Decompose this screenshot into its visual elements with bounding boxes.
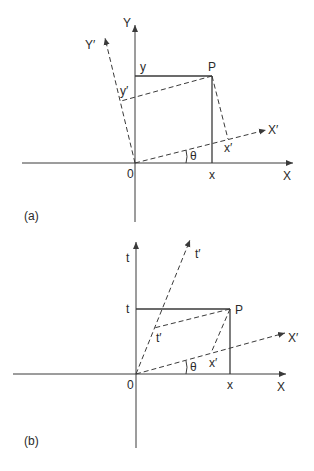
- x-prime-coord-label: x′: [209, 356, 218, 370]
- coordinate-rotation-diagram: Y Y′ y P y′ X′ x′ θ 0 x X (a) t t′ t P t…: [0, 0, 314, 471]
- theta-label: θ: [190, 360, 197, 374]
- x-coord-label: x: [209, 168, 215, 182]
- x-coord-label: x: [227, 378, 233, 392]
- panel-b-tag: (b): [24, 434, 39, 448]
- x-prime-projection-line: [212, 76, 228, 139]
- x-axis-label: X: [277, 380, 285, 394]
- t-prime-coord-label: t′: [156, 331, 162, 345]
- t-axis-label: t: [126, 251, 130, 265]
- panel-a: Y Y′ y P y′ X′ x′ θ 0 x X (a): [22, 16, 293, 223]
- t-coord-label: t: [126, 302, 130, 316]
- y-axis-label: Y: [123, 16, 131, 30]
- t-prime-axis: [136, 240, 190, 374]
- theta-arc: [186, 150, 187, 163]
- x-prime-axis: [135, 130, 266, 163]
- panel-b: t t′ t P t′ X′ x′ θ 0 x X (b): [13, 240, 299, 448]
- y-coord-label: y: [140, 60, 146, 74]
- t-prime-axis-label: t′: [195, 247, 201, 261]
- origin-label: 0: [127, 167, 134, 181]
- y-prime-axis: [105, 38, 135, 163]
- panel-a-tag: (a): [24, 209, 39, 223]
- theta-label: θ: [190, 149, 197, 163]
- point-p-label: P: [235, 303, 243, 317]
- x-prime-coord-label: x′: [224, 141, 233, 155]
- x-prime-axis-label: X′: [288, 331, 299, 345]
- point-p-label: P: [208, 60, 216, 74]
- y-prime-coord-label: y′: [120, 84, 129, 98]
- theta-arc: [186, 361, 187, 374]
- y-prime-axis-label: Y′: [85, 38, 96, 52]
- x-prime-axis-label: X′: [268, 123, 279, 137]
- origin-label: 0: [127, 378, 134, 392]
- x-prime-projection-line: [211, 309, 230, 353]
- x-axis-label: X: [283, 169, 291, 183]
- t-prime-projection-line: [154, 309, 230, 328]
